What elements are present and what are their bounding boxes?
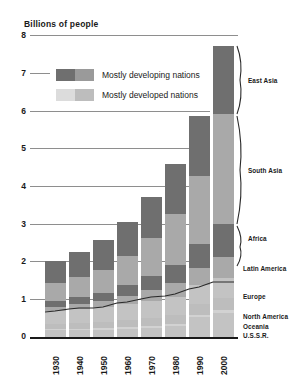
x-tick-1970: 1970 xyxy=(147,356,157,375)
x-tick-1950: 1950 xyxy=(99,356,109,375)
legend-swatch-developing xyxy=(56,69,94,81)
population-stacked-bar-chart: Billions of people 8 7 6 5 4 3 2 1 0 xyxy=(0,0,290,385)
legend-label-developed: Mostly developed nations xyxy=(102,89,198,101)
x-axis-line xyxy=(30,337,238,339)
x-tick-2000: 2000 xyxy=(219,356,229,375)
x-tick-1930: 1930 xyxy=(51,356,61,375)
legend-swatch-developed xyxy=(56,89,94,101)
region-label-south-asia: South Asia xyxy=(248,167,282,174)
region-label-north-america: North America xyxy=(243,313,288,320)
legend-label-developing: Mostly developing nations xyxy=(102,69,200,81)
region-label-africa: Africa xyxy=(248,235,267,242)
region-label-latin-america: Latin America xyxy=(243,265,286,272)
x-tick-1990: 1990 xyxy=(195,356,205,375)
x-tick-1960: 1960 xyxy=(123,356,133,375)
region-label-ussr: U.S.S.R. xyxy=(243,332,269,339)
x-tick-1940: 1940 xyxy=(75,356,85,375)
chart-legend: Mostly developing nations Mostly develop… xyxy=(50,64,213,105)
region-label-europe: Europe xyxy=(243,293,266,300)
x-tick-1980: 1980 xyxy=(171,356,181,375)
region-label-east-asia: East Asia xyxy=(248,77,277,84)
region-label-oceania: Oceania xyxy=(243,323,269,330)
